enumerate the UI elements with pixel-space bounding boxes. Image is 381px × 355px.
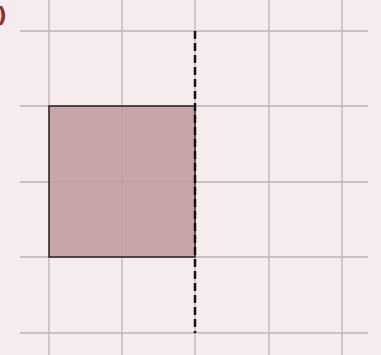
shaded-square (49, 106, 195, 257)
grid-diagram (0, 0, 381, 355)
